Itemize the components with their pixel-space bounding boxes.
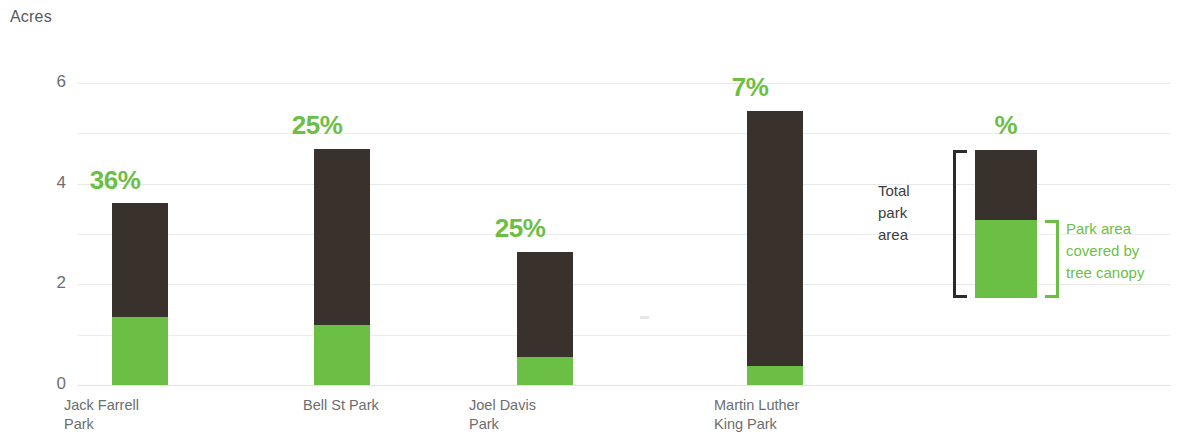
- y-tick-0: 0: [22, 374, 66, 394]
- legend-example-bar: [975, 150, 1037, 298]
- plot-area: 6 4 2 0 36% Jack Farrell Park 25% Bell S…: [0, 0, 1180, 442]
- x-label-bell-st-park: Bell St Park: [303, 396, 463, 415]
- legend-canopy-line1: Park area: [1066, 218, 1180, 240]
- y-tick-2: 2: [22, 273, 66, 293]
- legend-segment-total: [975, 150, 1037, 220]
- scan-artifact: [640, 316, 649, 319]
- bar-joel-davis-park[interactable]: [517, 252, 573, 385]
- legend-total-park-area-label: Total park area: [878, 180, 950, 246]
- bar-segment-total-1: [112, 203, 168, 317]
- legend-canopy-label: Park area covered by tree canopy: [1066, 218, 1180, 284]
- y-tick-6: 6: [22, 72, 66, 92]
- bar-segment-canopy-1: [112, 317, 168, 385]
- legend-canopy-line2: covered by: [1066, 240, 1180, 262]
- bar-segment-canopy-3: [517, 357, 573, 385]
- gridline-1: [78, 335, 1170, 336]
- bar-value-label-3: 25%: [460, 213, 580, 244]
- x-label-line1: Joel Davis: [469, 396, 629, 415]
- bar-jack-farrell-park[interactable]: [112, 203, 168, 385]
- bar-segment-total-2: [314, 149, 370, 325]
- legend-total-bracket-icon: [953, 150, 967, 298]
- x-label-joel-davis-park: Joel Davis Park: [469, 396, 629, 434]
- legend-canopy-bracket-icon: [1045, 220, 1059, 298]
- bar-value-label-1: 36%: [55, 165, 175, 196]
- bar-segment-total-4: [747, 111, 803, 366]
- legend-segment-canopy: [975, 220, 1037, 298]
- x-label-jack-farrell-park: Jack Farrell Park: [64, 396, 224, 434]
- legend-canopy-line3: tree canopy: [1066, 262, 1180, 284]
- bar-bell-st-park[interactable]: [314, 149, 370, 385]
- legend-percent-symbol: %: [975, 110, 1037, 141]
- x-label-martin-luther-king-park: Martin Luther King Park: [714, 396, 874, 434]
- legend-total-line3: area: [878, 224, 950, 246]
- chart-root: Acres 6 4 2 0 36% Jack Farrell Park 25%: [0, 0, 1180, 442]
- x-label-line2: Park: [64, 415, 224, 434]
- x-label-line2: King Park: [714, 415, 874, 434]
- bar-value-label-4: 7%: [690, 72, 810, 103]
- x-label-line1: Bell St Park: [303, 396, 463, 415]
- bar-segment-total-3: [517, 252, 573, 357]
- x-label-line2: Park: [469, 415, 629, 434]
- bar-martin-luther-king-park[interactable]: [747, 111, 803, 385]
- x-label-line1: Martin Luther: [714, 396, 874, 415]
- gridline-0: [78, 385, 1170, 386]
- legend-total-line2: park: [878, 202, 950, 224]
- x-label-line1: Jack Farrell: [64, 396, 224, 415]
- gridline-6: [78, 83, 1170, 84]
- bar-segment-canopy-2: [314, 325, 370, 385]
- legend-total-line1: Total: [878, 180, 950, 202]
- bar-segment-canopy-4: [747, 366, 803, 385]
- bar-value-label-2: 25%: [257, 110, 377, 141]
